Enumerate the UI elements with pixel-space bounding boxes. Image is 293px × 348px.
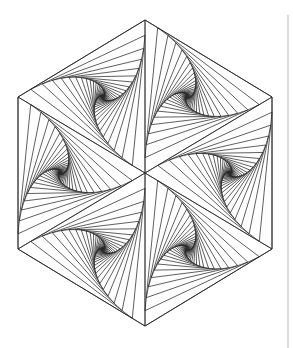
hexagon-spiral-artwork — [0, 0, 293, 348]
coloring-page-canvas — [0, 0, 293, 348]
page-edge-divider — [287, 15, 289, 348]
spiral-triangle — [31, 188, 145, 318]
spiral-triangle — [21, 120, 110, 210]
spiral-triangle — [179, 136, 268, 226]
spiral-triangle — [145, 28, 259, 158]
